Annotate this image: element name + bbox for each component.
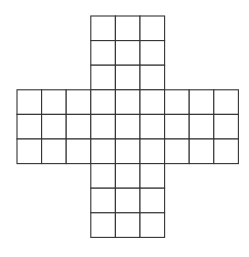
grid-cell [17, 139, 42, 164]
grid-cell [66, 90, 91, 115]
grid-cell [140, 164, 165, 189]
grid-cell [115, 90, 140, 115]
middle-band [17, 90, 238, 164]
grid-cell [140, 188, 165, 213]
grid-cell [115, 139, 140, 164]
grid-cell [115, 41, 140, 66]
grid-cell [115, 114, 140, 139]
grid-cell [115, 65, 140, 90]
grid-cell [91, 188, 116, 213]
grid-cell [214, 114, 239, 139]
grid-lines [17, 16, 238, 237]
grid-cell [115, 188, 140, 213]
grid-cell [42, 114, 67, 139]
grid-cell [91, 41, 116, 66]
grid-cell [140, 114, 165, 139]
bottom-arm [91, 164, 165, 238]
grid-cell [165, 139, 190, 164]
grid-cell [214, 139, 239, 164]
grid-cell [115, 16, 140, 41]
grid-cell [214, 90, 239, 115]
grid-cell [115, 164, 140, 189]
grid-cell [140, 16, 165, 41]
grid-cell [115, 213, 140, 238]
grid-cell [91, 65, 116, 90]
grid-cell [140, 41, 165, 66]
grid-cell [91, 16, 116, 41]
grid-cell [140, 90, 165, 115]
grid-cell [91, 213, 116, 238]
grid-cell [189, 139, 214, 164]
grid-cell [140, 65, 165, 90]
grid-cell [91, 164, 116, 189]
grid-cell [189, 90, 214, 115]
grid-cell [165, 114, 190, 139]
grid-cell [165, 90, 190, 115]
top-arm [91, 16, 165, 90]
grid-cell [17, 90, 42, 115]
grid-cell [91, 139, 116, 164]
grid-cell [140, 139, 165, 164]
grid-cell [66, 139, 91, 164]
grid-cell [91, 114, 116, 139]
grid-cell [42, 139, 67, 164]
grid-cell [189, 114, 214, 139]
cross-grid-diagram [0, 0, 249, 257]
grid-cell [91, 90, 116, 115]
grid-cell [66, 114, 91, 139]
grid-cell [42, 90, 67, 115]
grid-cell [140, 213, 165, 238]
grid-cell [17, 114, 42, 139]
